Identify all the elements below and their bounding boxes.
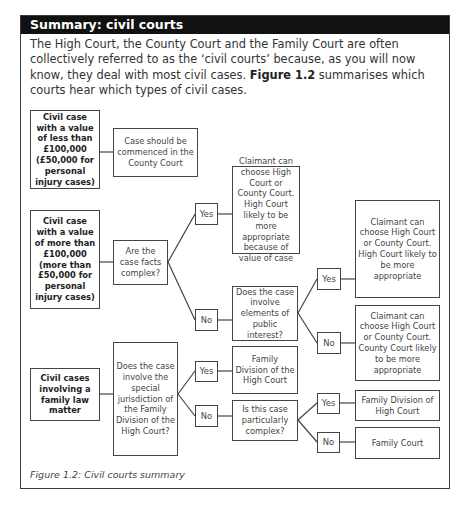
outcome-county-court-appropriate-box: Claimant can choose High Court or County…	[355, 305, 440, 381]
no-label-1: No	[195, 309, 218, 331]
outcome-high-court-appropriate-box: Claimant can choose High Court or County…	[355, 200, 440, 298]
no-label-2: No	[317, 332, 341, 354]
yes-label-3: Yes	[195, 361, 218, 382]
start-family-box: Civil cases involving a family law matte…	[30, 368, 100, 421]
no-label-3: No	[195, 405, 218, 427]
question-facts-complex-box: Are the case facts complex?	[113, 240, 168, 285]
outcome-high-value-box: Claimant can choose High Court or County…	[232, 166, 300, 254]
no-label-4: No	[317, 432, 340, 453]
outcome-county-court-box: Case should be commenced in the County C…	[113, 128, 198, 177]
yes-label-1: Yes	[195, 203, 218, 225]
outcome-family-court-box: Family Court	[355, 427, 440, 459]
question-public-interest-box: Does the case involve elements of public…	[232, 286, 298, 341]
yes-label-4: Yes	[317, 393, 340, 414]
start-high-value-box: Civil case with a value of more than £10…	[30, 210, 100, 309]
question-particularly-complex-box: Is this case particularly complex?	[232, 400, 298, 441]
outcome-family-division-box: Family Division of the High Court	[232, 346, 298, 394]
outcome-family-division-high-court-box: Family Division of High Court	[355, 390, 440, 421]
question-special-jurisdiction-box: Does the case involve the special jurisd…	[113, 342, 178, 456]
start-low-value-box: Civil case with a value of less than £10…	[30, 110, 100, 189]
yes-label-2: Yes	[317, 268, 341, 290]
